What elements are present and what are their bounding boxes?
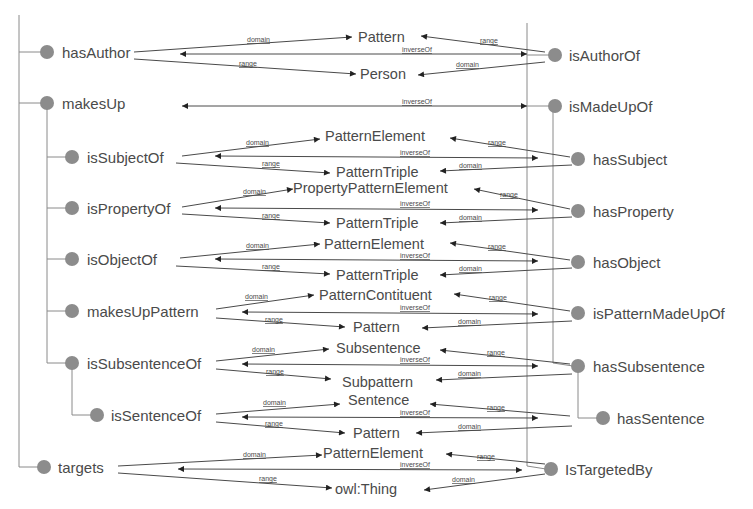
range-edge-label: range xyxy=(239,60,257,68)
node-isPropertyOf[interactable]: isPropertyOf xyxy=(65,200,171,217)
inverse-edge-label: inverseOf xyxy=(402,46,432,53)
domain-class-label: PatternElement xyxy=(325,128,425,144)
range-edge-label: range xyxy=(265,316,283,324)
domain-edge-label: domain xyxy=(458,423,481,430)
inverse-edge-label: inverseOf xyxy=(402,98,432,105)
node-isSentenceOf[interactable]: isSentenceOf xyxy=(90,407,202,424)
domain-arrow xyxy=(424,474,545,490)
domain-class-label: PatternContituent xyxy=(319,287,432,303)
relation-isPropertyOf-hasProperty: domain range inverseOf PropertyPatternEl… xyxy=(182,180,572,231)
property-label: makesUp xyxy=(62,95,125,112)
node-dot-icon xyxy=(571,204,585,218)
relation-makesUp-isMadeUpOf: inverseOf xyxy=(182,98,527,106)
node-isMadeUpOf[interactable]: isMadeUpOf xyxy=(548,98,653,115)
domain-class-label: PatternElement xyxy=(324,236,424,252)
node-isSubsentenceOf[interactable]: isSubsentenceOf xyxy=(65,355,202,372)
range-arrow xyxy=(450,138,570,157)
domain-edge-label: domain xyxy=(263,399,286,406)
property-label: targets xyxy=(58,459,104,476)
range-edge-label: range xyxy=(265,420,283,428)
node-dot-icon xyxy=(65,304,79,318)
left-nodes: hasAuthor makesUp isSubjectOf isProperty… xyxy=(37,44,202,476)
inverse-edge-label: inverseOf xyxy=(400,356,430,363)
node-dot-icon xyxy=(548,99,562,113)
range-edge-label: range xyxy=(480,37,498,45)
inverse-arrow xyxy=(215,259,538,261)
node-dot-icon xyxy=(90,408,104,422)
inverse-edge-label: inverseOf xyxy=(400,409,430,416)
node-targets[interactable]: targets xyxy=(37,459,104,476)
node-hasSubject[interactable]: hasSubject xyxy=(571,151,668,168)
node-hasAuthor[interactable]: hasAuthor xyxy=(40,44,130,61)
domain-arrow xyxy=(418,62,545,75)
node-dot-icon xyxy=(544,462,558,476)
domain-class-label: PropertyPatternElement xyxy=(293,180,448,196)
node-dot-icon xyxy=(65,356,79,370)
node-dot-icon xyxy=(571,306,585,320)
node-makesUpPattern[interactable]: makesUpPattern xyxy=(65,303,199,320)
property-label: hasObject xyxy=(593,254,661,271)
ontology-property-diagram: hasAuthor makesUp isSubjectOf isProperty… xyxy=(0,0,753,509)
property-label: IsTargetedBy xyxy=(565,461,653,478)
range-arrow xyxy=(440,350,570,364)
range-edge-label: range xyxy=(487,349,505,357)
property-label: isPatternMadeUpOf xyxy=(593,305,726,322)
range-edge-label: range xyxy=(489,294,507,302)
node-isAuthorOf[interactable]: isAuthorOf xyxy=(548,47,641,64)
range-edge-label: range xyxy=(259,475,277,483)
range-class-label: PatternTriple xyxy=(336,164,418,180)
domain-class-label: Sentence xyxy=(348,392,409,408)
domain-edge-label: domain xyxy=(243,188,266,195)
domain-edge-label: domain xyxy=(456,61,479,68)
inverse-edge-label: inverseOf xyxy=(400,200,430,207)
node-hasProperty[interactable]: hasProperty xyxy=(571,203,674,220)
node-dot-icon xyxy=(548,48,562,62)
node-dot-icon xyxy=(40,45,54,59)
node-dot-icon xyxy=(571,152,585,166)
domain-arrow xyxy=(422,321,572,328)
property-label: isSentenceOf xyxy=(111,407,202,424)
property-label: isSubsentenceOf xyxy=(87,355,202,372)
range-edge-label: range xyxy=(477,453,495,461)
node-makesUp[interactable]: makesUp xyxy=(40,95,125,112)
domain-arrow xyxy=(416,426,572,433)
property-label: hasProperty xyxy=(593,203,674,220)
property-label: isObjectOf xyxy=(87,251,158,268)
range-edge-label: range xyxy=(262,160,280,168)
right-property-tree xyxy=(527,23,598,469)
relation-isSubjectOf-hasSubject: domain range inverseOf PatternElement Pa… xyxy=(176,128,572,180)
node-dot-icon xyxy=(40,96,54,110)
domain-arrow xyxy=(134,37,352,52)
property-label: isAuthorOf xyxy=(569,47,641,64)
node-isPatternMadeUpOf[interactable]: isPatternMadeUpOf xyxy=(571,305,726,322)
property-label: isMadeUpOf xyxy=(569,98,653,115)
node-hasSentence[interactable]: hasSentence xyxy=(596,410,705,427)
domain-edge-label: domain xyxy=(459,162,482,169)
domain-arrow xyxy=(436,374,572,380)
inverse-arrow xyxy=(178,469,522,470)
range-edge-label: range xyxy=(266,368,284,376)
node-isTargetedBy[interactable]: IsTargetedBy xyxy=(544,461,653,478)
node-dot-icon xyxy=(571,359,585,373)
inverse-arrow xyxy=(215,208,538,210)
range-class-label: Pattern xyxy=(353,319,400,335)
domain-edge-label: domain xyxy=(459,265,482,272)
node-hasSubsentence[interactable]: hasSubsentence xyxy=(571,358,705,375)
node-isSubjectOf[interactable]: isSubjectOf xyxy=(65,149,165,166)
domain-edge-label: domain xyxy=(452,476,475,483)
property-label: hasSubsentence xyxy=(593,358,705,375)
domain-edge-label: domain xyxy=(459,214,482,221)
range-edge-label: range xyxy=(488,139,506,147)
range-class-label: PatternTriple xyxy=(336,215,418,231)
node-hasObject[interactable]: hasObject xyxy=(571,254,661,271)
domain-edge-label: domain xyxy=(458,370,481,377)
inverse-arrow xyxy=(242,417,538,418)
relation-targets-isTargetedBy: domain range inverseOf PatternElement ow… xyxy=(118,445,545,497)
range-class-label: owl:Thing xyxy=(335,481,397,497)
node-isObjectOf[interactable]: isObjectOf xyxy=(65,251,158,268)
relation-isSubsentenceOf-hasSubsentence: domain range inverseOf Subsentence Subpa… xyxy=(216,340,572,390)
range-edge-label: range xyxy=(262,212,280,220)
range-edge-label: range xyxy=(500,191,518,199)
inverse-edge-label: inverseOf xyxy=(400,304,430,311)
inverse-arrow xyxy=(242,312,538,314)
